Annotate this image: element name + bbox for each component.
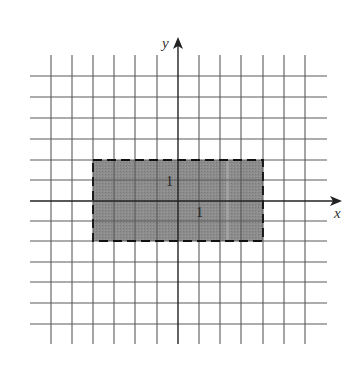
unit-label-horizontal: 1 [196,205,203,220]
unit-label-vertical: 1 [166,174,173,189]
x-axis-label: x [333,205,341,221]
coordinate-plane: y x 1 1 [0,0,351,373]
y-axis-label: y [160,35,169,51]
